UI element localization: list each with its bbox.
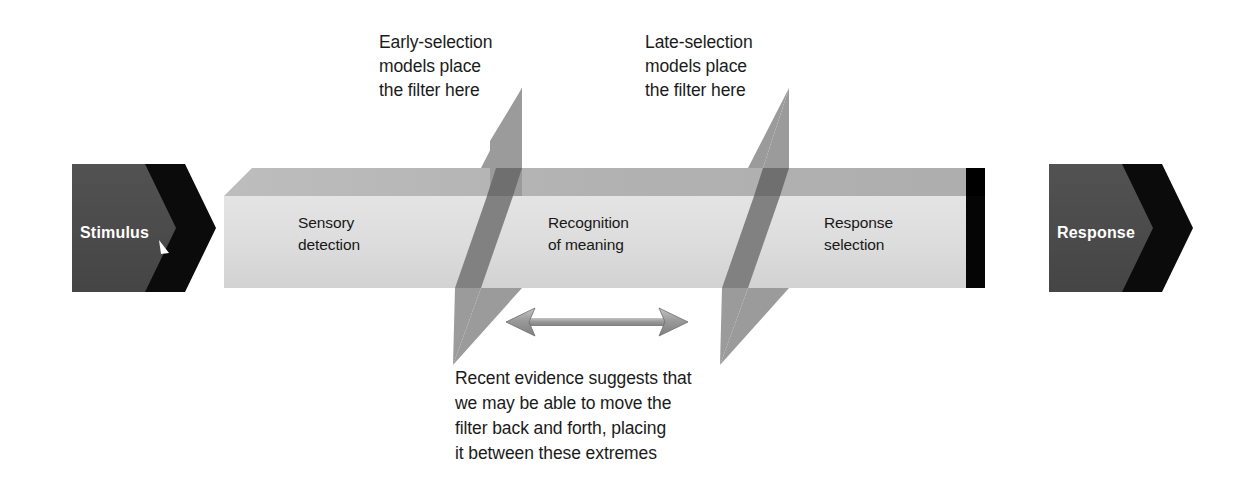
range-note-line-1: Recent evidence suggests that bbox=[455, 368, 691, 388]
diagram-canvas: Early-selectionmodels placethe filter he… bbox=[0, 0, 1237, 500]
stage-label-sensory-detection: Sensorydetection bbox=[298, 212, 360, 256]
filter-range-note: Recent evidence suggests thatwe may be a… bbox=[455, 366, 691, 466]
early-selection-line-1: Early-selection bbox=[379, 32, 492, 52]
response-badge-label: Response bbox=[1057, 224, 1135, 242]
bar-top-face bbox=[224, 168, 966, 196]
range-note-line-2: we may be able to move the bbox=[455, 393, 671, 413]
stage-label-response-selection: Responseselection bbox=[824, 212, 893, 256]
early-selection-line-3: the filter here bbox=[379, 80, 480, 100]
range-note-line-4: it between these extremes bbox=[455, 443, 657, 463]
late-selection-annotation: Late-selectionmodels placethe filter her… bbox=[645, 30, 753, 102]
early-selection-line-2: models place bbox=[379, 56, 481, 76]
stage-1-line-2: detection bbox=[298, 236, 360, 253]
early-selection-annotation: Early-selectionmodels placethe filter he… bbox=[379, 30, 492, 102]
range-note-line-3: filter back and forth, placing bbox=[455, 418, 666, 438]
late-selection-line-2: models place bbox=[645, 56, 747, 76]
stage-3-line-2: selection bbox=[824, 236, 884, 253]
stage-3-line-1: Response bbox=[824, 214, 893, 231]
late-selection-line-3: the filter here bbox=[645, 80, 746, 100]
stage-2-line-1: Recognition bbox=[548, 214, 629, 231]
double-headed-arrow bbox=[506, 308, 688, 336]
late-selection-line-1: Late-selection bbox=[645, 32, 753, 52]
stimulus-badge-label: Stimulus bbox=[80, 224, 149, 242]
arrow-shaft bbox=[528, 318, 666, 326]
stage-label-recognition-of-meaning: Recognitionof meaning bbox=[548, 212, 629, 256]
stage-1-line-1: Sensory bbox=[298, 214, 354, 231]
stage-2-line-2: of meaning bbox=[548, 236, 624, 253]
